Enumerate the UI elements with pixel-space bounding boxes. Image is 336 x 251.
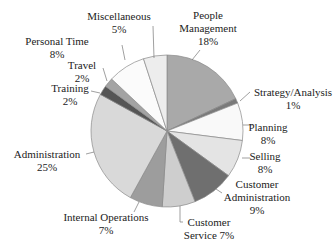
slice-label: Training2% [51,82,89,107]
slice-label: Administration25% [14,148,81,173]
slice-label: Selling8% [249,150,281,175]
leader-line [192,50,200,60]
leader-line [216,189,222,193]
pie-slices [91,55,243,207]
leader-line [240,92,250,101]
slice-label: PeopleManagement18% [179,9,236,47]
slice-label: Travel2% [68,59,96,84]
slice-label: CustomerAdministration9% [224,178,291,216]
pie-chart: PeopleManagement18%Strategy/Analysis1%Pl… [0,0,336,251]
leader-line [91,91,100,93]
slice-label: Personal Time8% [25,35,88,60]
slice-label: Strategy/Analysis1% [254,86,332,111]
slice-label: Internal Operations7% [63,211,148,236]
slice-label: Planning8% [248,121,288,146]
leader-line [103,68,107,81]
slice-label: Miscellaneous5% [87,10,151,35]
leader-line [153,26,154,58]
slice-label: CustomerService 7% [184,216,234,241]
leader-line [122,45,125,60]
leader-line [180,206,183,222]
leader-line [86,152,94,154]
